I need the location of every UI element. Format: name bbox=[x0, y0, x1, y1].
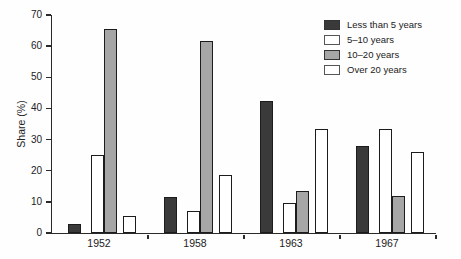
y-tick bbox=[46, 139, 51, 141]
bar bbox=[296, 191, 309, 233]
bar bbox=[91, 155, 104, 233]
bar bbox=[260, 101, 273, 233]
legend-item: 5–10 years bbox=[324, 32, 422, 47]
legend-label: Less than 5 years bbox=[347, 19, 422, 30]
bar bbox=[123, 216, 136, 233]
y-tick-label: 30 bbox=[31, 134, 42, 146]
bar bbox=[200, 41, 213, 233]
y-tick bbox=[46, 232, 51, 234]
y-tick-label: 20 bbox=[31, 165, 42, 177]
legend-swatch bbox=[324, 65, 340, 75]
x-category-label: 1967 bbox=[339, 237, 435, 249]
bar bbox=[104, 29, 117, 233]
y-tick bbox=[46, 201, 51, 203]
bar bbox=[187, 211, 200, 233]
legend-swatch bbox=[324, 20, 340, 30]
legend-swatch bbox=[324, 50, 340, 60]
bar bbox=[219, 175, 232, 233]
y-tick bbox=[46, 45, 51, 47]
legend-label: 10–20 years bbox=[347, 49, 399, 60]
legend-label: 5–10 years bbox=[347, 34, 394, 45]
bar bbox=[315, 129, 328, 233]
y-axis-title: Share (%) bbox=[15, 100, 27, 147]
legend-item: 10–20 years bbox=[324, 47, 422, 62]
y-tick bbox=[46, 170, 51, 172]
y-tick-label: 60 bbox=[31, 40, 42, 52]
bar-chart: Share (%) 010203040506070 Less than 5 ye… bbox=[0, 0, 461, 259]
y-tick bbox=[46, 77, 51, 79]
y-tick-label: 10 bbox=[31, 196, 42, 208]
bar bbox=[356, 146, 369, 233]
y-tick-label: 50 bbox=[31, 71, 42, 83]
y-tick bbox=[46, 14, 51, 16]
y-tick bbox=[46, 108, 51, 110]
y-tick-label: 40 bbox=[31, 102, 42, 114]
y-tick-label: 0 bbox=[36, 227, 42, 239]
bar bbox=[283, 203, 296, 233]
x-category-label: 1958 bbox=[147, 237, 243, 249]
bar bbox=[411, 152, 424, 233]
bar bbox=[68, 224, 81, 233]
legend-label: Over 20 years bbox=[347, 64, 407, 75]
bar bbox=[379, 129, 392, 233]
legend-swatch bbox=[324, 35, 340, 45]
legend-item: Over 20 years bbox=[324, 62, 422, 77]
legend-item: Less than 5 years bbox=[324, 17, 422, 32]
x-tick bbox=[435, 235, 437, 239]
bar bbox=[392, 196, 405, 233]
bar bbox=[164, 197, 177, 233]
x-category-label: 1952 bbox=[51, 237, 147, 249]
legend: Less than 5 years5–10 years10–20 yearsOv… bbox=[324, 17, 422, 77]
x-category-label: 1963 bbox=[243, 237, 339, 249]
y-tick-label: 70 bbox=[31, 9, 42, 21]
